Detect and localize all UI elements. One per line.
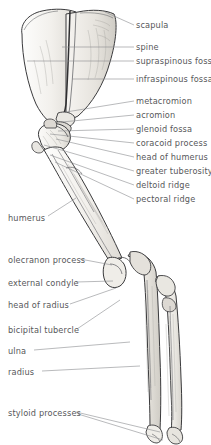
label-supraspinous-fossa: supraspinous fossa (136, 57, 211, 65)
label-glenoid-fossa: glenoid fossa (136, 125, 192, 133)
label-metacromion: metacromion (136, 97, 192, 105)
label-coracoid-process: coracoid process (136, 139, 207, 147)
label-spine: spine (136, 43, 159, 51)
label-ulna: ulna (8, 347, 26, 355)
label-infraspinous-fossa: infraspinous fossa (136, 75, 211, 83)
label-deltoid-ridge: deltoid ridge (136, 181, 190, 189)
label-radius: radius (8, 368, 34, 376)
styloid-processes-detail (146, 425, 183, 444)
label-bicipital-tubercle: bicipital tubercle (8, 326, 79, 334)
leader-line (34, 342, 130, 350)
leader-line (48, 198, 76, 216)
anatomical-figure: scapulaspinesupraspinous fossainfraspino… (0, 0, 211, 445)
label-head-of-humerus: head of humerus (136, 153, 208, 161)
leader-line (42, 366, 140, 371)
label-humerus: humerus (8, 214, 45, 222)
leader-line (76, 412, 160, 432)
scapula-bone (22, 9, 116, 134)
label-olecranon-process: olecranon process (8, 256, 85, 264)
label-external-condyle: external condyle (8, 279, 79, 287)
label-pectoral-ridge: pectoral ridge (136, 195, 195, 203)
leader-line (70, 288, 116, 304)
humerus-bone (44, 147, 132, 288)
label-greater-tuberosity: greater tuberosity (136, 167, 211, 175)
label-styloid-processes: styloid processes (8, 409, 81, 417)
label-acromion: acromion (136, 111, 175, 119)
label-scapula: scapula (136, 21, 169, 29)
leader-line (77, 300, 120, 329)
label-head-of-radius: head of radius (8, 301, 69, 309)
